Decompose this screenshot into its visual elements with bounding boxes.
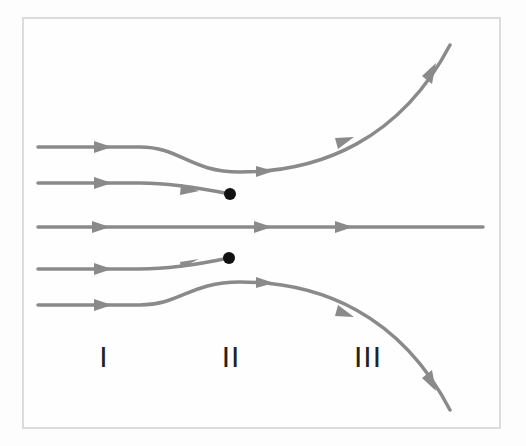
arrow-icon [422,370,436,391]
streamline-diagram [0,0,526,446]
streamline-top-inner [38,183,230,194]
arrow-icon [256,166,274,177]
arrow-icon [256,277,274,288]
arrow-icon [92,221,110,233]
lower-dot [223,252,235,264]
arrow-icon [422,63,436,84]
upper-dot [224,188,236,200]
arrow-icon [94,263,112,275]
region-label-2: II [222,340,241,374]
arrow-icon [94,141,112,153]
region-label-3: III [354,340,382,374]
arrow-icon [254,221,272,233]
streamline-bottom-inner [38,258,229,269]
region-label-1: I [99,340,108,374]
streamline-top-outer [38,45,450,172]
arrow-icon [94,299,112,311]
arrow-icon [94,177,112,189]
arrow-icon [335,221,353,233]
